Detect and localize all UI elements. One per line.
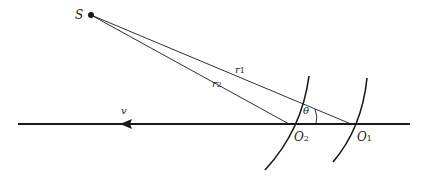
angle-theta-arc [315, 109, 317, 124]
label-source: S [75, 9, 83, 21]
label-O1-main: O [357, 130, 367, 144]
source-point [88, 12, 94, 18]
label-theta: θ [303, 106, 309, 116]
label-velocity: v [121, 106, 127, 116]
ray-r1 [91, 15, 351, 124]
label-O2-main: O [294, 130, 304, 144]
label-r1: r1 [235, 65, 245, 75]
label-O1: O1 [357, 131, 372, 143]
label-r2: r2 [212, 79, 222, 89]
diagram: S r1 r2 θ v O2 O1 [0, 0, 427, 176]
label-O2-sub: 2 [304, 134, 309, 143]
label-O1-sub: 1 [367, 134, 372, 143]
wavefront-arc-O1 [333, 78, 367, 162]
label-r2-sub: 2 [217, 80, 222, 89]
label-r1-sub: 1 [240, 66, 245, 75]
label-O2: O2 [294, 131, 309, 143]
